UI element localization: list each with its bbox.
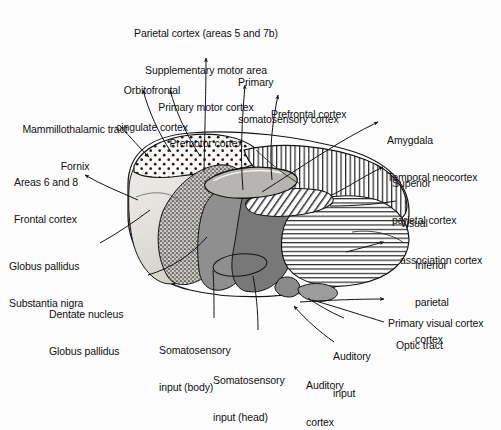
label-inferior-parietal-line1: Inferior [415,259,449,271]
label-dentate-nucleus: Dentate nucleus [49,308,123,320]
label-globus-pallidus-2: Globus pallidus [49,345,123,357]
label-superior-parietal-line1: Superior [392,177,456,189]
label-areas-6-8-line1: Areas 6 and 8 [14,176,78,188]
label-auditory-cortex-line2: cortex [306,416,344,428]
label-auditory-cortex: Auditory cortex [306,355,344,430]
label-frontal-cortex: Frontal cortex [14,213,78,225]
label-somatosensory-head-line1: Somatosensory [213,374,285,386]
label-optic-tract-line1: Optic tract [396,339,443,351]
label-areas-6-and-8: Areas 6 and 8 Frontal cortex [14,152,78,250]
leader-optic-tract [312,300,384,322]
label-auditory-cortex-line1: Auditory [306,379,344,391]
label-globus-pallidus: Globus pallidus [9,260,83,272]
label-parietal-cortex: Parietal cortex (areas 5 and 7b) [98,27,314,39]
label-prefrontal-line1: Prefrontal cortex [271,108,346,120]
label-orbitofrontal-line1: Orbitofrontal [96,84,208,96]
leader-auditory-cortex [294,306,334,342]
label-optic-tract: Optic tract [396,315,443,376]
label-amygdala: Amygdala [387,134,477,146]
region-medial-geniculate [275,277,300,297]
label-prefrontal-cortex: Prefrontal cortex [271,84,346,145]
label-visual-association-line1: Visual [400,217,482,229]
label-mammillothalamic-tract: Mammillothalamic tract [10,123,140,135]
label-somatosensory-input-head: Somatosensory input (head) [213,350,285,430]
region-lateral-geniculate [298,284,337,302]
label-dentate-nucleus-globus-pallidus: Dentate nucleus Globus pallidus [49,284,123,382]
label-somatosensory-head-line2: input (head) [213,411,285,423]
